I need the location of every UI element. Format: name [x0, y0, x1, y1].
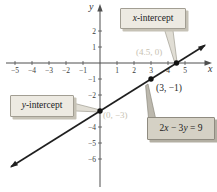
y-axis-arrowhead	[97, 4, 102, 12]
x-tick-label: −2	[62, 66, 70, 75]
y-tick-label: 1	[92, 43, 96, 52]
x-intercept-callout: x-intercept	[120, 8, 186, 29]
x-intercept-point-label: (4.5, 0)	[136, 48, 162, 57]
x-tick-label: −5	[11, 66, 19, 75]
line-graph-figure: −5 −4 −3 −2 −1 1 2 3 4 5 2 1 −1 −2 −4 −5…	[0, 0, 217, 192]
x-intercept-callout-text: -intercept	[137, 14, 173, 24]
y-intercept-callout-text: -intercept	[26, 101, 62, 111]
y-tick-label: −5	[88, 139, 96, 148]
x-tick-label: −1	[79, 66, 87, 75]
y-tick-label: 2	[92, 27, 96, 36]
y-intercept-callout: y-intercept	[10, 95, 74, 117]
y-tick-label: −4	[88, 123, 96, 132]
y-tick-label: −6	[88, 155, 96, 164]
y-axis-label: y	[89, 2, 93, 12]
graph-line-arrowhead-upper	[198, 45, 206, 52]
point-y-intercept	[97, 108, 102, 113]
point-3-neg1	[148, 76, 153, 81]
x-tick-label: 3	[149, 66, 153, 75]
x-tick-label: 5	[183, 66, 187, 75]
callout-pointer-y-intercept	[71, 103, 100, 113]
x-tick-label: −4	[28, 66, 36, 75]
x-axis-label: x	[208, 64, 212, 74]
x-tick-label: 2	[132, 66, 136, 75]
equation-callout: 2x − 3y = 9	[147, 117, 215, 140]
x-tick-label: 1	[115, 66, 119, 75]
y-tick-label: −2	[88, 91, 96, 100]
callout-pointer-x-intercept	[164, 27, 177, 62]
graph-line-arrowhead-lower	[10, 161, 18, 168]
y-tick-label: −1	[88, 75, 96, 84]
equation-rhs: = 9	[188, 124, 203, 134]
point-x-intercept	[174, 60, 179, 65]
point-3-neg1-label: (3, −1)	[156, 84, 182, 94]
callout-pointer-equation	[146, 84, 156, 118]
equation-operator: − 3	[169, 124, 184, 134]
x-tick-label: −3	[45, 66, 53, 75]
y-intercept-point-label: (0, −3)	[103, 111, 128, 120]
